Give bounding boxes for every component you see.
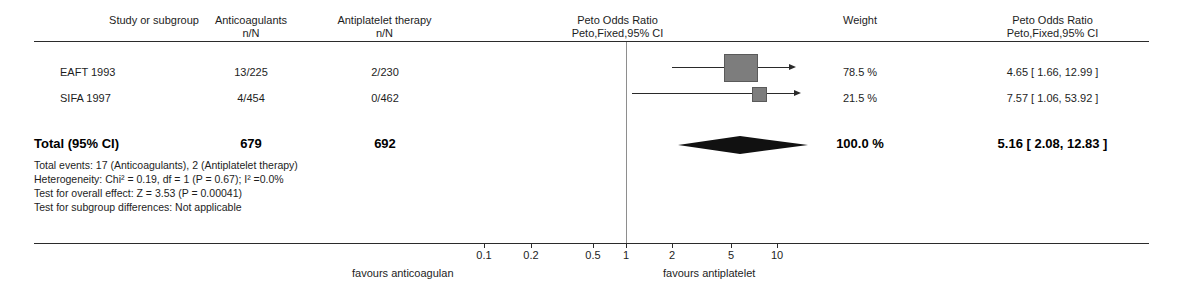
study-weight-row-0: 78.5 % [800,66,920,78]
study-control-nN-row-1: 0/462 [320,92,450,104]
favours-left-label: favours anticoagulan [352,267,454,279]
column-header-estimate-sub: Peto,Fixed,95% CI [930,27,1175,40]
axis-tick-5 [731,243,732,248]
column-header-plot-label: Peto Odds Ratio [577,14,658,26]
column-header-plot-sub: Peto,Fixed,95% CI [520,27,715,40]
axis-label-3: 1 [606,249,646,261]
column-header-antiplatelet: Antiplatelet therapy n/N [312,14,457,39]
study-weight-row-1: 21.5 % [800,92,920,104]
column-header-anticoagulants-sub: n/N [186,27,316,40]
table-header: Study or subgroup Anticoagulants n/N Ant… [0,6,1183,40]
total-weight: 100.0 % [800,136,920,151]
total-label: Total (95% CI) [34,136,119,151]
study-treatment-nN-row-0: 13/225 [186,66,316,78]
total-treatment-n: 679 [186,136,316,151]
column-header-anticoagulants-label: Anticoagulants [215,14,287,26]
column-header-weight: Weight [800,14,920,27]
stats-heterogeneity: Heterogeneity: Chi² = 0.19, df = 1 (P = … [34,174,284,186]
study-estimate-row-1: 7.57 [ 1.06, 53.92 ] [930,92,1175,104]
axis-tick-2 [593,243,594,248]
column-header-estimate-label: Peto Odds Ratio [1012,14,1093,26]
effect-box-row-1 [752,87,767,102]
column-header-anticoagulants: Anticoagulants n/N [186,14,316,39]
axis-line [34,243,1149,244]
ci-arrow-right-row-1 [794,90,801,96]
forest-plot: Study or subgroup Anticoagulants n/N Ant… [0,0,1183,298]
axis-tick-3 [626,243,627,248]
axis-tick-4 [672,243,673,248]
axis-label-4: 2 [652,249,692,261]
study-label-row-1: SIFA 1997 [60,92,111,104]
column-header-estimate: Peto Odds Ratio Peto,Fixed,95% CI [930,14,1175,39]
total-control-n: 692 [320,136,450,151]
study-label-row-0: EAFT 1993 [60,66,115,78]
study-estimate-row-0: 4.65 [ 1.66, 12.99 ] [930,66,1175,78]
axis-label-1: 0.2 [511,249,551,261]
column-header-plot: Peto Odds Ratio Peto,Fixed,95% CI [520,14,715,39]
axis-label-6: 10 [757,249,797,261]
axis-tick-6 [777,243,778,248]
stats-overall-effect: Test for overall effect: Z = 3.53 (P = 0… [34,188,242,200]
axis-label-5: 5 [711,249,751,261]
total-estimate: 5.16 [ 2.08, 12.83 ] [930,136,1175,151]
axis-label-0: 0.1 [464,249,504,261]
effect-box-row-0 [724,54,758,82]
axis-tick-1 [531,243,532,248]
plot-area [450,42,780,243]
ci-arrow-right-row-0 [789,64,796,70]
favours-right-label: favours antiplatelet [663,267,755,279]
study-control-nN-row-0: 2/230 [320,66,450,78]
study-treatment-nN-row-1: 4/454 [186,92,316,104]
stats-subgroup-differences: Test for subgroup differences: Not appli… [34,202,242,214]
column-header-antiplatelet-label: Antiplatelet therapy [337,14,431,26]
reference-line [626,42,627,243]
column-header-weight-label: Weight [843,14,877,26]
ci-line-row-1 [632,93,794,94]
summary-diamond [678,134,808,156]
axis-tick-0 [484,243,485,248]
column-header-antiplatelet-sub: n/N [312,27,457,40]
stats-total-events: Total events: 17 (Anticoagulants), 2 (An… [34,160,298,172]
